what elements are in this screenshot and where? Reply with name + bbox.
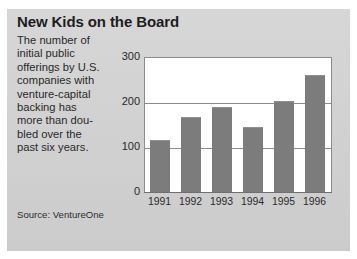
figure-canvas: New Kids on the Board The number of init… <box>0 0 357 259</box>
description-line: offerings by U.S. <box>17 61 121 74</box>
x-axis-tick-label: 1993 <box>206 196 237 208</box>
description-line: bled over the <box>17 128 121 141</box>
description-line: The number of <box>17 34 121 47</box>
description-line: backing has <box>17 101 121 114</box>
description-text: The number of initial public offerings b… <box>17 34 121 155</box>
y-axis-tick-label: 300 <box>122 51 140 62</box>
x-axis-tick-label: 1994 <box>237 196 268 208</box>
bar-1992 <box>181 117 201 193</box>
description-line: past six years. <box>17 141 121 154</box>
bar-chart: 0100200300 199119921993199419951996 <box>144 48 330 192</box>
axis-baseline <box>144 192 332 193</box>
bar-1996 <box>305 75 325 193</box>
y-axis-tick-label: 200 <box>122 96 140 107</box>
x-axis: 199119921993199419951996 <box>144 196 330 210</box>
x-axis-tick-label: 1996 <box>299 196 330 208</box>
bar-1991 <box>150 140 170 193</box>
x-axis-tick-label: 1995 <box>268 196 299 208</box>
bar-1993 <box>212 107 232 193</box>
y-axis: 0100200300 <box>112 48 140 192</box>
gridline <box>145 103 331 104</box>
plot-area <box>144 57 332 193</box>
description-line: initial public <box>17 47 121 60</box>
source-label: Source: VentureOne <box>17 209 104 220</box>
description-line: more than dou- <box>17 114 121 127</box>
bar-1995 <box>274 101 294 193</box>
bar-1994 <box>243 127 263 193</box>
description-line: venture-capital <box>17 88 121 101</box>
x-axis-tick-label: 1991 <box>144 196 175 208</box>
x-axis-tick-label: 1992 <box>175 196 206 208</box>
page-title: New Kids on the Board <box>17 13 179 30</box>
description-line: companies with <box>17 74 121 87</box>
gridline <box>145 148 331 149</box>
y-axis-tick-label: 100 <box>122 141 140 152</box>
plot-inner <box>145 58 331 193</box>
y-axis-tick-label: 0 <box>134 186 140 197</box>
